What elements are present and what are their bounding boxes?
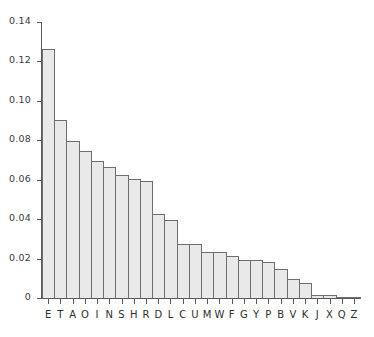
bar-o bbox=[79, 151, 92, 299]
x-axis-label-u: U bbox=[189, 308, 201, 324]
x-axis-label-c: C bbox=[177, 308, 189, 324]
y-axis-tick-label: 0.04 bbox=[9, 212, 31, 223]
x-axis-tick-mark bbox=[305, 299, 306, 304]
bar-i bbox=[91, 161, 104, 299]
x-axis-tick-mark bbox=[73, 299, 74, 304]
y-axis-tick-label: 0.08 bbox=[9, 133, 31, 144]
x-axis-label-l: L bbox=[164, 308, 176, 324]
x-axis-tick bbox=[54, 299, 66, 304]
x-axis-tick-mark bbox=[281, 299, 282, 304]
x-axis-label-a: A bbox=[66, 308, 78, 324]
x-axis-tick-mark bbox=[109, 299, 110, 304]
bar-t bbox=[54, 120, 67, 299]
x-axis-label-o: O bbox=[79, 308, 91, 324]
x-axis-tick bbox=[115, 299, 127, 304]
x-axis-label-z: Z bbox=[348, 308, 360, 324]
y-axis-tick-label: 0.06 bbox=[9, 173, 31, 184]
x-axis-tick-mark bbox=[134, 299, 135, 304]
x-axis-tick bbox=[262, 299, 274, 304]
y-axis-tick-label: 0.02 bbox=[9, 252, 31, 263]
bar-c bbox=[177, 244, 190, 299]
x-axis-tick bbox=[164, 299, 176, 304]
x-axis-tick bbox=[287, 299, 299, 304]
x-axis-label-p: P bbox=[262, 308, 274, 324]
x-axis-tick-mark bbox=[342, 299, 343, 304]
bar-m bbox=[201, 252, 214, 299]
x-axis-label-h: H bbox=[128, 308, 140, 324]
x-axis-tick-mark bbox=[170, 299, 171, 304]
x-axis-tick bbox=[323, 299, 335, 304]
x-axis-label-q: Q bbox=[336, 308, 348, 324]
y-axis-tick-label: 0.10 bbox=[9, 94, 31, 105]
x-axis-tick-mark bbox=[60, 299, 61, 304]
x-axis-tick-mark bbox=[317, 299, 318, 304]
x-axis-label-b: B bbox=[274, 308, 286, 324]
x-axis-label-d: D bbox=[152, 308, 164, 324]
bar-w bbox=[213, 252, 226, 299]
x-axis-label-y: Y bbox=[250, 308, 262, 324]
x-axis-tick-mark bbox=[293, 299, 294, 304]
x-axis-tick-mark bbox=[354, 299, 355, 304]
plot-area bbox=[42, 22, 360, 299]
x-axis-tick bbox=[79, 299, 91, 304]
bar-f bbox=[226, 256, 239, 299]
x-axis-label-f: F bbox=[226, 308, 238, 324]
x-axis-tick-mark bbox=[146, 299, 147, 304]
x-axis-tick bbox=[274, 299, 286, 304]
x-axis-tick bbox=[213, 299, 225, 304]
x-axis-label-v: V bbox=[287, 308, 299, 324]
bar-p bbox=[262, 262, 275, 299]
x-axis-label-j: J bbox=[311, 308, 323, 324]
x-axis-tick bbox=[348, 299, 360, 304]
bar-u bbox=[189, 244, 202, 299]
x-axis-label-s: S bbox=[115, 308, 127, 324]
x-axis-tick bbox=[336, 299, 348, 304]
x-axis-tick-mark bbox=[256, 299, 257, 304]
bar-s bbox=[115, 175, 128, 299]
letter-frequency-bar-chart: 00.020.040.060.080.100.120.14 ETAOINSHRD… bbox=[0, 0, 374, 337]
x-axis-tick bbox=[201, 299, 213, 304]
x-axis-tick-mark bbox=[48, 299, 49, 304]
x-axis-tick-mark bbox=[195, 299, 196, 304]
bar-a bbox=[66, 141, 79, 299]
y-axis-tick-label: 0.14 bbox=[9, 15, 31, 26]
x-axis-tick bbox=[189, 299, 201, 304]
x-axis-label-t: T bbox=[54, 308, 66, 324]
x-axis-tick bbox=[177, 299, 189, 304]
bar-l bbox=[164, 220, 177, 299]
x-axis-label-i: I bbox=[91, 308, 103, 324]
x-axis-tick-mark bbox=[207, 299, 208, 304]
x-axis-tick-mark bbox=[268, 299, 269, 304]
x-axis-tick-mark bbox=[244, 299, 245, 304]
x-axis-tick bbox=[128, 299, 140, 304]
x-axis-tick bbox=[152, 299, 164, 304]
y-axis-tick-label: 0.12 bbox=[9, 54, 31, 65]
x-axis-tick bbox=[42, 299, 54, 304]
x-axis-tick bbox=[250, 299, 262, 304]
x-axis-tick-mark bbox=[232, 299, 233, 304]
bar-e bbox=[42, 49, 55, 299]
x-axis-ticks bbox=[42, 299, 360, 304]
x-axis-label-x: X bbox=[323, 308, 335, 324]
x-axis-tick bbox=[66, 299, 78, 304]
x-axis-tick bbox=[299, 299, 311, 304]
x-axis-tick bbox=[226, 299, 238, 304]
bar-g bbox=[238, 260, 251, 299]
x-axis-tick-mark bbox=[85, 299, 86, 304]
bar-y bbox=[250, 260, 263, 299]
bar-d bbox=[152, 214, 165, 299]
bar-series bbox=[42, 22, 360, 299]
x-axis-label-e: E bbox=[42, 308, 54, 324]
x-axis-label-r: R bbox=[140, 308, 152, 324]
x-axis-tick-mark bbox=[122, 299, 123, 304]
bar-h bbox=[128, 179, 141, 299]
x-axis-tick-mark bbox=[183, 299, 184, 304]
x-axis-label-g: G bbox=[238, 308, 250, 324]
bar-n bbox=[103, 167, 116, 299]
bar-b bbox=[274, 269, 287, 299]
x-axis-tick bbox=[140, 299, 152, 304]
x-axis-tick bbox=[311, 299, 323, 304]
x-axis-tick-mark bbox=[330, 299, 331, 304]
x-axis-label-k: K bbox=[299, 308, 311, 324]
x-axis-label-n: N bbox=[103, 308, 115, 324]
